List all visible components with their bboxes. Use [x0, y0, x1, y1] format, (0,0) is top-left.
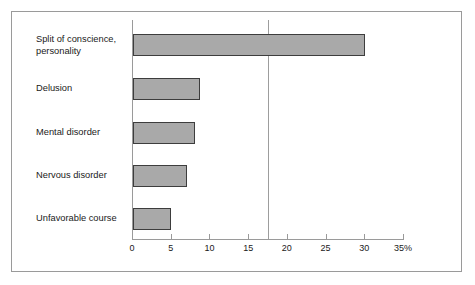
- x-axis-tick-label: 20: [282, 243, 292, 253]
- x-axis-tick-label: 35%: [394, 243, 412, 253]
- x-axis-tick-label: 0: [129, 243, 134, 253]
- x-axis-tick: [209, 234, 210, 240]
- bar-rect[interactable]: [133, 208, 171, 230]
- x-axis-tick: [364, 234, 365, 240]
- x-axis-tick: [171, 234, 172, 240]
- x-axis-tick-label: 10: [204, 243, 214, 253]
- bar-row: Mental disorder: [12, 112, 461, 154]
- x-axis-tick: [326, 234, 327, 240]
- x-axis-tick-label: 30: [359, 243, 369, 253]
- x-axis-tick: [132, 234, 133, 240]
- bar-category-label: Mental disorder: [36, 127, 128, 139]
- bar-category-label: Split of conscience, personality: [36, 34, 128, 57]
- bar-category-label: Unfavorable course: [36, 213, 128, 225]
- plot-area: Split of conscience, personality Delusio…: [12, 12, 461, 271]
- x-axis-tick-label: 5: [168, 243, 173, 253]
- bar-rect[interactable]: [133, 78, 200, 100]
- bar-row: Split of conscience, personality: [12, 24, 461, 66]
- bar-rect[interactable]: [133, 122, 195, 144]
- chart-figure: Split of conscience, personality Delusio…: [11, 11, 462, 272]
- bar-row: Nervous disorder: [12, 155, 461, 197]
- bar-row: Delusion: [12, 68, 461, 110]
- x-axis-tick-label: 25: [321, 243, 331, 253]
- x-axis-tick: [287, 234, 288, 240]
- x-axis-tick: [248, 234, 249, 240]
- x-axis-tick: [403, 234, 404, 240]
- bar-rect[interactable]: [133, 34, 365, 56]
- bar-category-label: Delusion: [36, 83, 128, 95]
- bar-row: Unfavorable course: [12, 198, 461, 240]
- bar-rect[interactable]: [133, 165, 187, 187]
- x-axis-tick-label: 15: [243, 243, 253, 253]
- bar-category-label: Nervous disorder: [36, 170, 128, 182]
